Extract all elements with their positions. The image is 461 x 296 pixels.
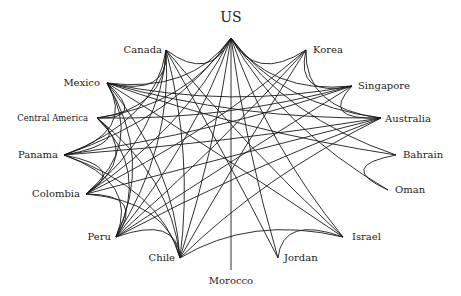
node-label-australia: Australia (384, 113, 431, 124)
node-label-colombia: Colombia (32, 188, 80, 199)
node-label-peru: Peru (88, 231, 112, 242)
trade-network-diagram: USCanadaKoreaMexicoSingaporeCentral Amer… (0, 0, 461, 296)
edge-colombia-korea (86, 50, 306, 194)
edge-centralamerica-singapore (97, 86, 352, 118)
edge-us-jordan (231, 38, 278, 258)
node-label-mexico: Mexico (63, 77, 100, 88)
edge-canada-mexico (107, 50, 166, 86)
node-label-jordan: Jordan (283, 252, 318, 263)
node-label-oman: Oman (395, 184, 426, 195)
edge-mexico-peru (107, 83, 133, 237)
node-label-canada: Canada (124, 44, 162, 55)
node-label-bahrain: Bahrain (403, 149, 444, 160)
node-label-israel: Israel (352, 231, 381, 242)
edge-chile-australia (180, 118, 381, 258)
node-label-chile: Chile (149, 252, 175, 263)
edge-centralamerica-colombia (86, 118, 116, 194)
edge-canada-colombia (86, 50, 166, 194)
node-label-panama: Panama (18, 149, 58, 160)
edge-us-chile (180, 38, 231, 258)
node-label-centralamerica: Central America (17, 113, 88, 123)
node-label-singapore: Singapore (358, 80, 410, 91)
edge-korea-singapore (304, 50, 352, 89)
edge-layer (64, 38, 396, 270)
node-label-morocco: Morocco (209, 275, 253, 286)
edge-peru-australia (116, 118, 381, 237)
node-label-korea: Korea (313, 44, 343, 55)
node-label-us: US (220, 9, 241, 25)
edge-chile-israel (180, 230, 343, 258)
